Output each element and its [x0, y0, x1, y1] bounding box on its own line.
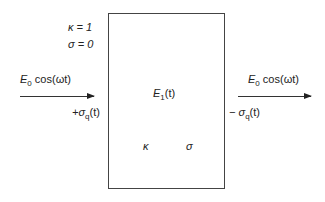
- incident-func: cos(ωt): [35, 73, 71, 85]
- transmitted-arrow: [238, 96, 311, 97]
- slab-field-arg: (t): [165, 87, 175, 99]
- incident-arrow: [20, 96, 94, 97]
- transmitted-func: cos(ωt): [263, 73, 299, 85]
- transmitted-wave-label: E0 cos(ωt): [248, 73, 299, 90]
- left-charge-symbol: +σ: [72, 106, 85, 118]
- vacuum-sigma-label: σ = 0: [68, 38, 93, 50]
- right-charge-symbol: − σ: [229, 106, 245, 118]
- right-surface-charge: − σq(t): [229, 106, 260, 123]
- transmitted-E-sub: 0: [255, 79, 259, 88]
- slab-sigma-label: σ: [186, 140, 193, 152]
- slab-kappa-label: κ: [143, 140, 149, 152]
- incident-E-sub: 0: [27, 79, 31, 88]
- incident-wave-label: E0 cos(ωt): [20, 73, 71, 90]
- left-charge-arg: (t): [90, 106, 100, 118]
- right-charge-arg: (t): [250, 106, 260, 118]
- slab-field-label: E1(t): [153, 87, 175, 104]
- vacuum-kappa-label: κ = 1: [68, 21, 92, 33]
- left-surface-charge: +σq(t): [72, 106, 100, 123]
